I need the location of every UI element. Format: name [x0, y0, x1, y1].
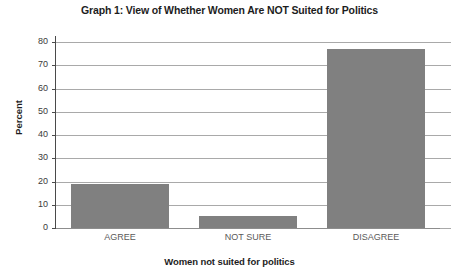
y-axis-tick-label: 0	[20, 223, 48, 232]
y-axis-tick	[52, 135, 56, 136]
gridline	[56, 228, 440, 229]
right-axis-tick	[440, 135, 451, 136]
y-axis-tick	[52, 89, 56, 90]
bar-chart: Graph 1: View of Whether Women Are NOT S…	[0, 0, 459, 277]
y-axis-tick-label: 70	[20, 60, 48, 69]
y-axis-tick-label: 10	[20, 200, 48, 209]
x-axis-title: Women not suited for politics	[0, 256, 459, 267]
y-axis-tick-label: 20	[20, 177, 48, 186]
y-axis-tick	[52, 182, 56, 183]
y-axis-tick-label: 60	[20, 84, 48, 93]
y-axis-tick-label: 50	[20, 107, 48, 116]
plot-area	[56, 42, 440, 228]
y-axis-tick-label: 80	[20, 37, 48, 46]
bar	[71, 184, 168, 228]
bar	[199, 216, 296, 228]
x-axis-tick-label: NOT SURE	[184, 232, 312, 242]
y-axis-tick	[52, 112, 56, 113]
y-axis-tick	[52, 65, 56, 66]
y-axis-tick	[52, 158, 56, 159]
y-axis-tick-label: 40	[20, 130, 48, 139]
gridline	[56, 42, 440, 43]
bar	[327, 49, 424, 228]
y-axis-tick-labels: 01020304050607080	[20, 0, 50, 277]
y-axis-tick	[52, 228, 56, 229]
right-axis-tick	[440, 112, 451, 113]
x-axis-tick-label: AGREE	[56, 232, 184, 242]
right-axis-tick	[440, 42, 451, 43]
right-axis-tick	[440, 158, 451, 159]
right-axis-tick	[440, 228, 451, 229]
right-axis-tick	[440, 65, 451, 66]
y-axis-tick-label: 30	[20, 153, 48, 162]
x-axis-tick-label: DISAGREE	[312, 232, 440, 242]
y-axis-tick	[52, 42, 56, 43]
chart-title: Graph 1: View of Whether Women Are NOT S…	[0, 4, 459, 16]
right-axis-tick	[440, 182, 451, 183]
right-axis-tick	[440, 205, 451, 206]
right-axis-tick	[440, 89, 451, 90]
y-axis-tick	[52, 205, 56, 206]
